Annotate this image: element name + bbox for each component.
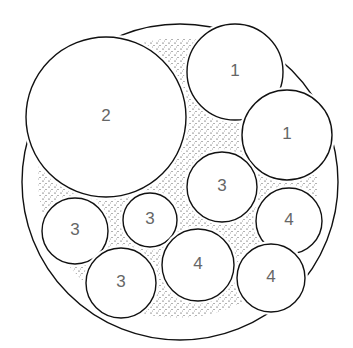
packed-circles-diagram: 2113333444 — [0, 0, 353, 348]
circle-label: 4 — [193, 254, 202, 273]
circle-label: 1 — [230, 61, 239, 80]
circle-label: 3 — [217, 176, 226, 195]
circle-c4a: 4 — [159, 226, 237, 304]
circle-label: 3 — [145, 209, 154, 228]
circle-label: 3 — [70, 220, 79, 239]
circle-label: 4 — [266, 267, 275, 286]
circle-c3a: 3 — [184, 149, 260, 225]
circle-c2: 2 — [23, 34, 189, 200]
circle-label: 1 — [282, 124, 291, 143]
circle-label: 2 — [101, 106, 110, 125]
circle-label: 3 — [116, 272, 125, 291]
circle-c3d: 3 — [83, 245, 159, 321]
circle-c4c: 4 — [234, 241, 308, 315]
circle-label: 4 — [284, 210, 293, 229]
